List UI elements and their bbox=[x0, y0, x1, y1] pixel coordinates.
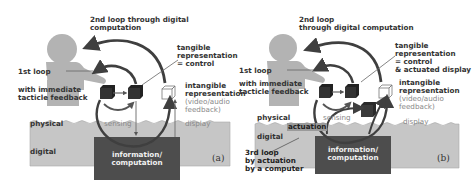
panel-b: 2nd loop through digital computation tan… bbox=[237, 0, 474, 189]
sensing-label: sensing bbox=[323, 114, 351, 122]
loop1-label: 1st loop bbox=[239, 67, 272, 75]
digital-label: digital bbox=[30, 148, 56, 156]
loop3-label-line3: by a computer bbox=[245, 165, 304, 173]
tangible-cube-1 bbox=[100, 85, 115, 99]
immediate-label-line2: tacticle feedback bbox=[239, 88, 309, 96]
loop2-label-line2: through digital computation bbox=[299, 24, 414, 32]
sensing-label: sensing bbox=[104, 120, 132, 128]
physical-label: physical bbox=[30, 120, 63, 128]
intangible-label-line4: feedback) bbox=[185, 106, 221, 114]
immediate-label-line2: tacticle feedback bbox=[18, 94, 88, 102]
tangible-cube-2 bbox=[345, 84, 359, 98]
actuated-cube bbox=[361, 102, 376, 117]
tangible-label-line3: = control bbox=[177, 60, 214, 68]
panel-a: 2nd loop through digital computation tan… bbox=[0, 0, 237, 189]
panel-label-a: (a) bbox=[212, 154, 224, 162]
display-label: display bbox=[403, 118, 429, 126]
display-label: display bbox=[185, 120, 211, 128]
intangible-label-line4: feedback) bbox=[399, 103, 435, 111]
loop1-label: 1st loop bbox=[18, 68, 51, 76]
computation-label-line2: computation bbox=[315, 154, 391, 162]
digital-label: digital bbox=[257, 133, 283, 141]
physical-label: physical bbox=[257, 114, 290, 122]
tangible-cube-1 bbox=[319, 84, 333, 98]
computation-label-line2: computation bbox=[94, 159, 180, 167]
loop2-label-line2: computation bbox=[90, 24, 141, 32]
intangible-cube-icon bbox=[379, 85, 392, 98]
actuation-label: actuation bbox=[287, 123, 327, 131]
tangible-label-line4: & actuated display bbox=[395, 66, 471, 74]
tangible-cube-2 bbox=[128, 85, 143, 99]
panel-label-b: (b) bbox=[437, 154, 450, 162]
intangible-cube-icon bbox=[162, 86, 175, 99]
